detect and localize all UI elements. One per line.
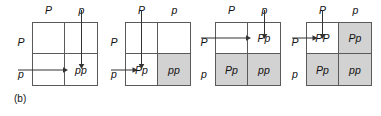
row-header-bottom: p [288,68,302,80]
column-header-left: P [125,4,158,16]
punnett-cell: pp [158,54,190,85]
punnett-cell [158,23,190,54]
row-header-bottom: p [14,68,28,80]
punnett-cell: Pp [126,54,158,85]
punnett-grid: Pppp [125,22,191,86]
punnett-cell: Pp [216,54,248,85]
row-header-bottom: p [107,68,121,80]
punnett-grid: PpPppp [215,22,281,86]
punnett-cell: Pp [339,23,371,54]
row-header-top: P [14,36,28,48]
column-header-right: p [339,4,372,16]
punnett-cell [33,54,65,85]
column-header-right: p [248,4,281,16]
column-header-left: P [32,4,65,16]
punnett-cell [126,23,158,54]
punnett-cell: Pp [307,54,339,85]
figure-caption: (b) [14,93,26,104]
punnett-cell: pp [248,54,280,85]
punnett-grid: pp [32,22,98,86]
punnett-square-4: PpPpPPPpPppp [284,0,379,116]
punnett-cell: Pp [248,23,280,54]
punnett-grid: PPPpPppp [306,22,372,86]
column-header-right: p [65,4,98,16]
punnett-cell [216,23,248,54]
column-header-right: p [158,4,191,16]
column-header-left: P [306,4,339,16]
punnett-cell: pp [65,54,97,85]
column-header-left: P [215,4,248,16]
punnett-cell: pp [339,54,371,85]
punnett-square-3: PpPpPpPppp [193,0,288,116]
punnett-square-figure: PpPpppPpPpPpppPpPpPpPpppPpPpPPPpPppp [0,0,381,116]
row-header-top: P [197,36,211,48]
punnett-cell [33,23,65,54]
row-header-bottom: p [197,68,211,80]
row-header-top: P [288,36,302,48]
punnett-square-2: PpPpPppp [103,0,198,116]
punnett-cell: PP [307,23,339,54]
row-header-top: P [107,36,121,48]
punnett-cell [65,23,97,54]
